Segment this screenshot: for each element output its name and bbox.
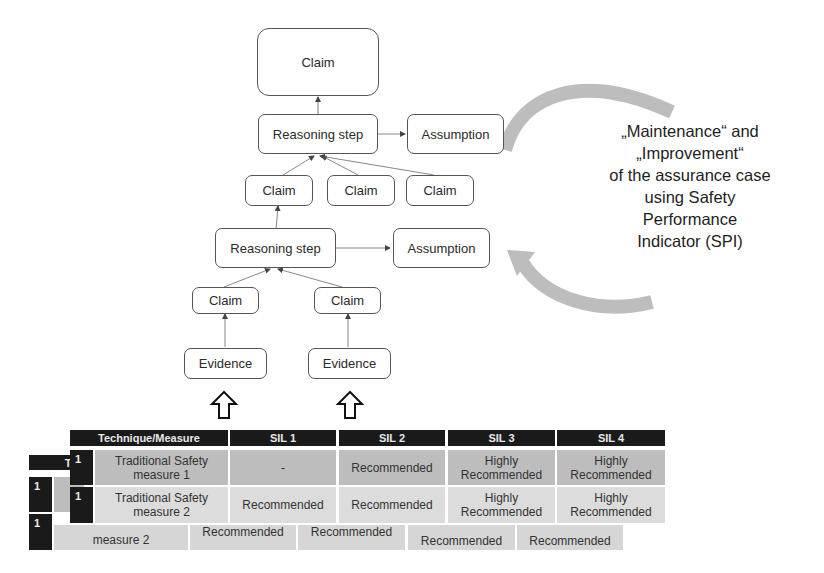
cycle-arrow-lower xyxy=(522,262,652,307)
node-label: Reasoning step xyxy=(273,127,363,142)
cycle-label-line: Indicator (SPI) xyxy=(590,230,790,252)
table-header-cell: SIL 3 xyxy=(448,430,555,446)
cycle-label-line: Performance xyxy=(590,208,790,230)
table-header-cell: SIL 2 xyxy=(339,430,445,446)
table-header-cell: Technique/Measure xyxy=(70,430,228,446)
claim-node: Claim xyxy=(245,175,313,206)
claim-node: Claim xyxy=(314,287,381,314)
cycle-label: „Maintenance“ and „Improvement“ of the a… xyxy=(590,120,790,252)
cycle-label-line: „Maintenance“ and xyxy=(590,120,790,142)
assumption-node: Assumption xyxy=(393,228,490,268)
node-label: Assumption xyxy=(408,241,476,256)
node-label: Evidence xyxy=(199,356,252,371)
table-cell: Highly Recommended xyxy=(557,487,665,523)
row-number: 1 xyxy=(29,477,52,512)
reasoning-step-node: Reasoning step xyxy=(258,114,378,154)
top-claim-node: Claim xyxy=(257,28,379,96)
cycle-label-line: „Improvement“ xyxy=(590,142,790,164)
assumption-node: Assumption xyxy=(407,114,504,154)
table-cell: Highly Recommended xyxy=(557,450,665,485)
reasoning-step-node: Reasoning step xyxy=(215,228,336,268)
table-cell: Traditional Safety measure 2 xyxy=(95,487,228,523)
table-cell: measure 2 xyxy=(54,525,188,550)
table-cell: Recommended xyxy=(190,525,296,550)
node-label: Claim xyxy=(423,183,456,198)
table-cell: Recommended xyxy=(230,487,336,523)
node-label: Reasoning step xyxy=(230,241,320,256)
row-number: 1 xyxy=(70,487,93,523)
up-arrow-icon xyxy=(212,392,236,418)
table-cell: Recommended xyxy=(517,525,623,550)
node-label: Claim xyxy=(331,293,364,308)
table-cell: Recommended xyxy=(339,487,445,523)
table-cell: Highly Recommended xyxy=(448,487,555,523)
node-label: Claim xyxy=(262,183,295,198)
table-cell: Recommended xyxy=(339,450,445,485)
cycle-label-line: of the assurance case xyxy=(590,164,790,186)
evidence-node: Evidence xyxy=(184,348,267,379)
node-label: Claim xyxy=(209,293,242,308)
table-cell: - xyxy=(230,450,336,485)
claim-node: Claim xyxy=(406,175,474,206)
row-number: 1 xyxy=(70,450,93,485)
cycle-label-line: using Safety xyxy=(590,186,790,208)
node-label: Evidence xyxy=(323,356,376,371)
table-header-cell: SIL 4 xyxy=(557,430,665,446)
table-cell: Recommended xyxy=(408,525,515,550)
table-header-cell: SIL 1 xyxy=(230,430,336,446)
table-cell: Recommended xyxy=(298,525,405,550)
evidence-node: Evidence xyxy=(308,348,391,379)
claim-node: Claim xyxy=(192,287,259,314)
table-cell: Highly Recommended xyxy=(448,450,555,485)
claim-node: Claim xyxy=(327,175,395,206)
row-number: 1 xyxy=(29,514,52,550)
node-label: Claim xyxy=(344,183,377,198)
up-arrow-icon xyxy=(338,392,362,418)
node-label: Claim xyxy=(301,55,334,70)
node-label: Assumption xyxy=(422,127,490,142)
table-cell: Traditional Safety measure 1 xyxy=(95,450,228,485)
